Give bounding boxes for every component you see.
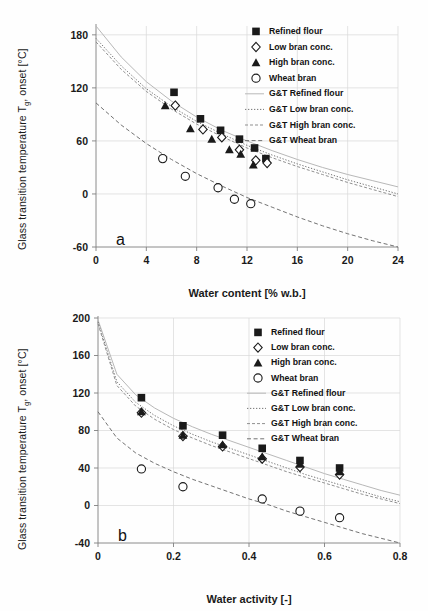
panel-a-x-axis-title: Water content [% w.b.] xyxy=(96,287,398,299)
marker-filled-triangle xyxy=(161,101,170,109)
y-axis-title-line3: , onset [°C] xyxy=(16,348,28,401)
data-series-markers xyxy=(159,155,255,208)
x-axis-tick-label: 0 xyxy=(95,550,101,562)
gridlines xyxy=(96,26,398,247)
marker-open-circle xyxy=(181,172,189,180)
marker-filled-triangle xyxy=(225,145,234,153)
y-axis-title-subscript: g xyxy=(22,402,31,406)
panel-letter: a xyxy=(116,231,125,248)
marker-open-circle xyxy=(137,465,145,473)
y-axis-title-line2: T xyxy=(16,406,28,413)
y-axis-title-line2: T xyxy=(16,106,28,113)
y-axis-title-line1: Glass transition temperature xyxy=(16,112,28,250)
legend-label: G&T Wheat bran xyxy=(271,433,339,443)
legend-label: Low bran conc. xyxy=(271,342,335,352)
marker-open-circle xyxy=(247,200,255,208)
y-axis-tick-label: 160 xyxy=(72,349,90,361)
y-axis-tick-label: -40 xyxy=(75,537,90,549)
marker-filled-square xyxy=(138,394,146,402)
legend-label: G&T Low bran conc. xyxy=(269,104,353,114)
panel-a-plot: 04812162024-60060120180aRefined flourLow… xyxy=(0,0,428,305)
marker-filled-triangle xyxy=(207,135,216,143)
legend-label: G&T High bran conc. xyxy=(271,418,357,428)
panel-b-plot: 00.20.40.60.8-4004080120160200bRefined f… xyxy=(0,305,428,611)
marker-filled-square xyxy=(251,144,259,152)
x-axis-tick-label: 8 xyxy=(194,254,200,266)
marker-filled-square xyxy=(170,89,178,97)
figure-glass-transition: 04812162024-60060120180aRefined flourLow… xyxy=(0,0,428,611)
y-axis-tick-label: 80 xyxy=(78,424,90,436)
marker-open-diamond xyxy=(254,343,262,352)
marker-filled-triangle xyxy=(252,58,261,66)
legend-label: Wheat bran xyxy=(271,373,318,383)
panel-letter: b xyxy=(118,527,127,544)
marker-filled-square xyxy=(236,135,244,143)
x-axis-tick-label: 0.6 xyxy=(317,550,332,562)
marker-open-circle xyxy=(159,155,167,163)
y-axis-title-line3: , onset [°C] xyxy=(16,48,28,101)
panel-b: 00.20.40.60.8-4004080120160200bRefined f… xyxy=(0,305,428,611)
panel-b-x-axis-title: Water activity [-] xyxy=(98,593,400,605)
y-axis-tick-label: 120 xyxy=(70,82,88,94)
x-axis-tick-label: 0 xyxy=(93,254,99,266)
data-series-markers xyxy=(170,89,269,163)
y-axis-tick-label: 120 xyxy=(72,387,90,399)
x-axis-tick-label: 16 xyxy=(291,254,303,266)
marker-open-diamond xyxy=(252,42,260,51)
y-axis-tick-label: 0 xyxy=(82,188,88,200)
y-axis-title-subscript: g xyxy=(22,102,31,106)
legend-label: High bran conc. xyxy=(269,57,335,67)
y-axis-tick-label: -60 xyxy=(73,241,88,253)
panel-a: 04812162024-60060120180aRefined flourLow… xyxy=(0,0,428,305)
x-axis-tick-label: 0.2 xyxy=(166,550,181,562)
y-axis-tick-label: 200 xyxy=(72,312,90,324)
x-axis-tick-label: 0.4 xyxy=(242,550,257,562)
marker-filled-triangle xyxy=(186,124,195,132)
legend-label: G&T Low bran conc. xyxy=(271,403,355,413)
gridlines xyxy=(98,318,400,543)
y-axis-tick-label: 40 xyxy=(78,462,90,474)
marker-open-circle xyxy=(336,514,344,522)
marker-filled-square xyxy=(252,28,260,36)
legend-label: G&T Wheat bran xyxy=(269,135,337,145)
marker-filled-triangle xyxy=(254,358,263,366)
x-axis-tick-label: 12 xyxy=(241,254,253,266)
legend-label: Refined flour xyxy=(269,26,323,36)
legend-label: G&T Refined flour xyxy=(271,388,346,398)
marker-filled-square xyxy=(258,445,266,453)
marker-filled-triangle xyxy=(218,440,227,448)
marker-filled-square xyxy=(217,127,225,135)
axes: 04812162024-60060120180 xyxy=(70,24,404,266)
legend-label: Low bran conc. xyxy=(269,42,333,52)
data-series-markers xyxy=(137,465,343,522)
x-axis-tick-label: 20 xyxy=(342,254,354,266)
marker-filled-square xyxy=(179,422,187,430)
marker-open-circle xyxy=(179,483,187,491)
legend-label: G&T High bran conc. xyxy=(269,120,355,130)
marker-open-diamond xyxy=(171,101,179,110)
x-axis-tick-label: 4 xyxy=(143,254,149,266)
legend: Refined flourLow bran conc.High bran con… xyxy=(245,26,355,145)
y-axis-tick-label: 180 xyxy=(70,29,88,41)
marker-open-circle xyxy=(296,507,304,515)
y-axis-title-line1: Glass transition temperature xyxy=(16,412,28,550)
marker-open-circle xyxy=(252,74,260,82)
x-axis-tick-label: 0.8 xyxy=(393,550,408,562)
marker-filled-square xyxy=(219,431,227,439)
legend-label: Wheat bran xyxy=(269,73,316,83)
marker-open-circle xyxy=(230,195,238,203)
x-axis-tick-label: 24 xyxy=(392,254,404,266)
marker-open-circle xyxy=(254,374,262,382)
y-axis-tick-label: 60 xyxy=(76,135,88,147)
y-axis-tick-label: 0 xyxy=(84,499,90,511)
panel-a-y-axis-title: Glass transition temperature Tg, onset [… xyxy=(16,48,31,250)
marker-filled-square xyxy=(254,329,262,337)
legend-label: G&T Refined flour xyxy=(269,88,344,98)
marker-open-circle xyxy=(214,184,222,192)
panel-b-y-axis-title: Glass transition temperature Tg, onset [… xyxy=(16,348,31,550)
legend-label: High bran conc. xyxy=(271,357,337,367)
axes: 00.20.40.60.8-4004080120160200 xyxy=(72,312,407,562)
legend-label: Refined flour xyxy=(271,327,325,337)
legend: Refined flourLow bran conc.High bran con… xyxy=(247,327,357,443)
marker-filled-square xyxy=(197,115,205,123)
